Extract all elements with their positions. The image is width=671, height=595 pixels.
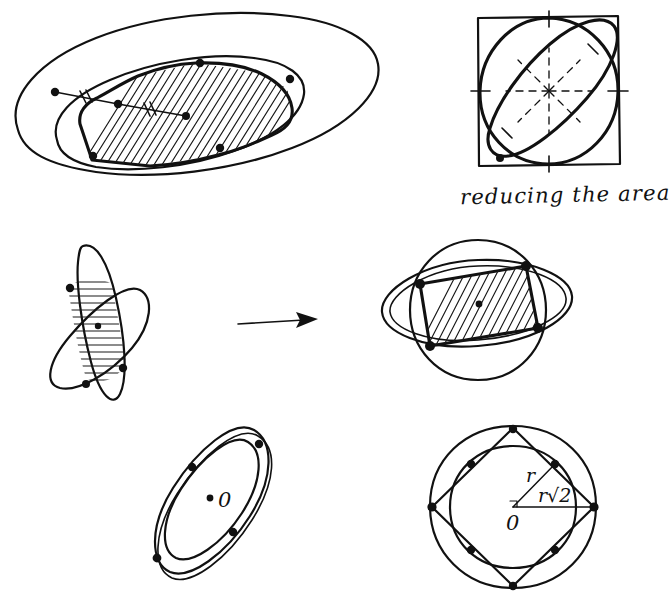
figure-transformation-arrow <box>232 300 328 344</box>
tick-mark <box>588 44 598 54</box>
marked-point <box>496 154 504 162</box>
marked-point <box>51 88 59 96</box>
marked-point <box>216 144 224 152</box>
center-point <box>95 323 101 329</box>
marked-point <box>182 112 190 120</box>
figure-round-and-flat-ellipse-overlap <box>378 232 578 388</box>
caption-reducing-the-area: reducing the area <box>460 181 671 209</box>
marked-point <box>467 460 475 468</box>
convex-hull-region <box>60 40 392 200</box>
figure-circle-square-circumscribed: r r√2 0 <box>418 420 608 595</box>
arrow-shaft <box>238 320 304 324</box>
center-point <box>207 495 214 502</box>
tick-mark <box>502 128 512 138</box>
marked-point <box>427 502 436 511</box>
label-radius-r-root2: r√2 <box>538 484 571 506</box>
marked-point <box>229 528 237 536</box>
marked-point <box>415 279 425 289</box>
marked-point <box>425 341 435 351</box>
marked-point <box>533 323 543 333</box>
center-point <box>476 301 483 308</box>
tick-mark <box>86 90 92 102</box>
marked-point <box>82 380 90 388</box>
marked-point <box>89 152 97 160</box>
figure-square-circle-tilted-ellipse <box>462 6 637 178</box>
tick-mark <box>150 102 156 115</box>
marked-point <box>286 75 294 83</box>
marked-point <box>114 100 122 108</box>
marked-point <box>188 463 196 471</box>
lens-region <box>50 282 140 380</box>
label-radius-r: r <box>526 464 537 486</box>
marked-point <box>153 554 162 563</box>
segment-left <box>55 92 118 104</box>
figure-two-crossed-narrow-ellipses <box>30 232 220 412</box>
marked-point <box>551 460 559 468</box>
marked-point <box>509 582 517 590</box>
marked-point <box>589 502 598 511</box>
marked-point <box>196 59 204 67</box>
center-label: 0 <box>218 488 231 512</box>
marked-point <box>119 364 127 372</box>
marked-point <box>66 284 74 292</box>
center-label: 0 <box>506 511 519 535</box>
marked-point <box>551 546 559 554</box>
marked-point <box>509 425 517 433</box>
marked-point <box>255 440 263 448</box>
dashed-radial-spokes <box>506 48 592 134</box>
figure-nested-tilted-ellipses: 0 <box>122 420 312 592</box>
outer-ellipse <box>16 13 379 175</box>
marked-point <box>521 261 531 271</box>
figure-ellipse-with-inscribed-convex-hull <box>0 0 400 200</box>
marked-point <box>467 546 475 554</box>
